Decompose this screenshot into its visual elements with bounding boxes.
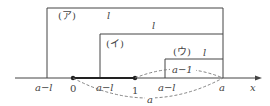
- box-i-length: l: [152, 20, 155, 31]
- tick-one: 1: [132, 85, 138, 96]
- box-a-tag: (ア): [58, 10, 76, 21]
- box-a-length: l: [107, 10, 110, 21]
- arc-a-label: a: [147, 94, 153, 105]
- arc-a-minus-1-label: a−1: [172, 64, 193, 75]
- tick-a-minus-l-1: a−l: [35, 82, 53, 93]
- box-u-length: l: [203, 47, 206, 58]
- axis-var-label: x: [250, 82, 256, 93]
- tick-a-minus-l-3: a−l: [158, 82, 176, 93]
- arc-a-minus-1: a−1: [135, 64, 223, 78]
- tick-a: a: [219, 82, 225, 93]
- tick-a-minus-l-2: a−l: [96, 82, 114, 93]
- interval-diagram: (ア) l (イ) l (ウ) l x a−l 0 a−l 1 a−l a a−…: [0, 0, 270, 106]
- box-u-tag: (ウ): [173, 46, 191, 57]
- box-i-tag: (イ): [106, 38, 124, 49]
- tick-zero: 0: [70, 83, 76, 94]
- box-a: (ア) l: [47, 8, 223, 78]
